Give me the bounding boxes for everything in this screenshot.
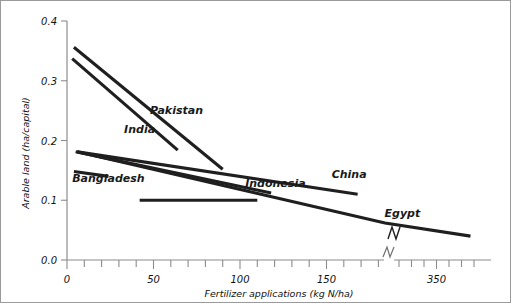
x-axis-break-icon: [383, 247, 394, 257]
series-label-pakistan: Pakistan: [150, 104, 203, 117]
chart-figure: 0.4 0.3 0.2 0.1 0.0: [0, 0, 511, 303]
x-tick-label: 50: [147, 274, 160, 285]
series-label-egypt: Egypt: [385, 207, 421, 220]
x-tick-label: 150: [317, 274, 336, 285]
y-tick-label: 0.1: [41, 195, 57, 206]
x-tick-label: 350: [427, 274, 446, 285]
series-label-india: India: [124, 123, 155, 136]
series-label-indonesia: Indonesia: [245, 177, 305, 190]
chart-plot-area: 0.4 0.3 0.2 0.1 0.0: [1, 1, 511, 303]
series-label-bangladesh: Bangladesh: [72, 172, 145, 185]
y-axis-tick-labels: 0.4 0.3 0.2 0.1 0.0: [41, 16, 57, 266]
x-axis-tick-labels: 0 50 100 150 350: [64, 274, 446, 285]
x-axis-ticks-right: [399, 260, 474, 269]
x-tick-label: 100: [230, 274, 249, 285]
y-tick-label: 0.2: [41, 136, 57, 147]
y-axis-title: Arable land (ha/capital): [20, 97, 31, 210]
x-axis-title: Fertilizer applications (kg N/ha): [204, 288, 353, 299]
x-tick-label: 0: [64, 274, 70, 285]
egypt-line-break-icon: [388, 227, 400, 239]
y-tick-label: 0.4: [41, 16, 57, 27]
series-line-egypt: [77, 152, 470, 236]
y-axis-ticks: [61, 21, 67, 260]
series-label-china: China: [332, 168, 367, 181]
y-tick-label: 0.0: [41, 255, 57, 266]
y-tick-label: 0.3: [41, 76, 57, 87]
x-axis-ticks-left: [67, 260, 378, 269]
